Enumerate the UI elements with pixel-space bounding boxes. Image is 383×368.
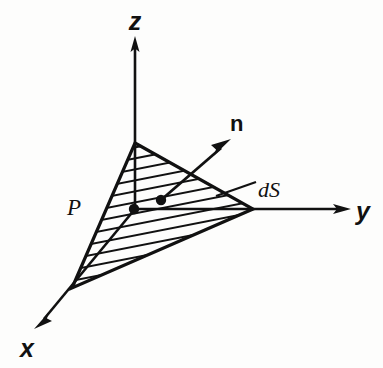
surface-hatching	[40, 115, 300, 331]
x-axis-arrowhead	[34, 313, 52, 330]
surface-element-label: dS	[258, 177, 280, 202]
z-axis	[131, 36, 140, 209]
surface-element-point-dot	[156, 195, 166, 205]
z-axis-label: z	[128, 7, 142, 35]
vector-field-surface-diagram: z y x n P dS	[0, 0, 383, 368]
ds-leader-line	[216, 182, 256, 196]
normal-vector-label: n	[230, 111, 243, 136]
y-axis-label: y	[354, 197, 371, 225]
figure-canvas: z y x n P dS	[0, 0, 383, 368]
point-p-label: P	[66, 195, 81, 220]
x-axis-label: x	[18, 334, 35, 362]
origin-point-dot	[129, 204, 139, 214]
x-axis	[34, 209, 135, 329]
